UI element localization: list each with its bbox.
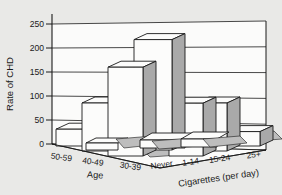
category-label-1-14: 1-14 [182, 155, 200, 167]
y-tick-label-200: 200 [30, 43, 45, 53]
y-tick-label-150: 150 [30, 67, 45, 77]
cigarettes-axis-title: Cigarettes (per day) [178, 167, 260, 188]
chd-3d-bar-chart: 050100150200250Rate of CHD50-5940-4930-3… [0, 0, 282, 195]
category-label-15-24: 15-24 [208, 152, 231, 165]
y-tick-label-100: 100 [30, 91, 45, 101]
category-label-50-59: 50-59 [50, 151, 73, 164]
y-tick-label-250: 250 [30, 19, 45, 29]
category-label-25+: 25+ [246, 149, 262, 161]
category-label-30-39: 30-39 [119, 160, 142, 173]
y-tick-label-50: 50 [34, 115, 44, 125]
y-tick-label-0: 0 [39, 139, 44, 149]
age-axis-title: Age [87, 169, 104, 180]
figure-page: 050100150200250Rate of CHD50-5940-4930-3… [0, 0, 282, 195]
y-axis-title: Rate of CHD [4, 57, 15, 111]
category-label-Never: Never [150, 158, 174, 171]
floor-slab-left-front [86, 143, 118, 150]
category-label-40-49: 40-49 [82, 155, 105, 168]
bar-Never-side [172, 34, 185, 150]
